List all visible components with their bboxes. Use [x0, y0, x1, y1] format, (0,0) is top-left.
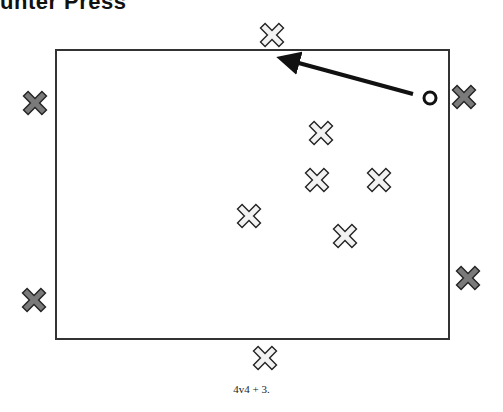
- player-dark-x-icon: [23, 289, 46, 312]
- diagram-caption: 4v4 + 3.: [0, 383, 503, 395]
- player-light-x-icon: [261, 24, 284, 47]
- ball-icon: [424, 92, 436, 104]
- player-dark-x-icon: [457, 267, 480, 290]
- field-rectangle: [56, 50, 449, 339]
- player-light-x-icon: [368, 169, 391, 192]
- field-boundary: [56, 50, 449, 339]
- player-light-x-icon: [306, 169, 329, 192]
- player-light-x-icon: [238, 205, 261, 228]
- arrow-icon: [284, 59, 413, 94]
- player-light-x-icon: [334, 225, 357, 248]
- player-dark-x-icon: [453, 86, 476, 109]
- player-dark-x-icon: [24, 92, 47, 115]
- attacking-players: [238, 24, 391, 370]
- player-light-x-icon: [310, 122, 333, 145]
- player-light-x-icon: [254, 347, 277, 370]
- pitch-diagram: [0, 0, 503, 412]
- ball: [424, 92, 436, 104]
- pass-arrow: [284, 59, 413, 94]
- neutral-players: [23, 86, 480, 312]
